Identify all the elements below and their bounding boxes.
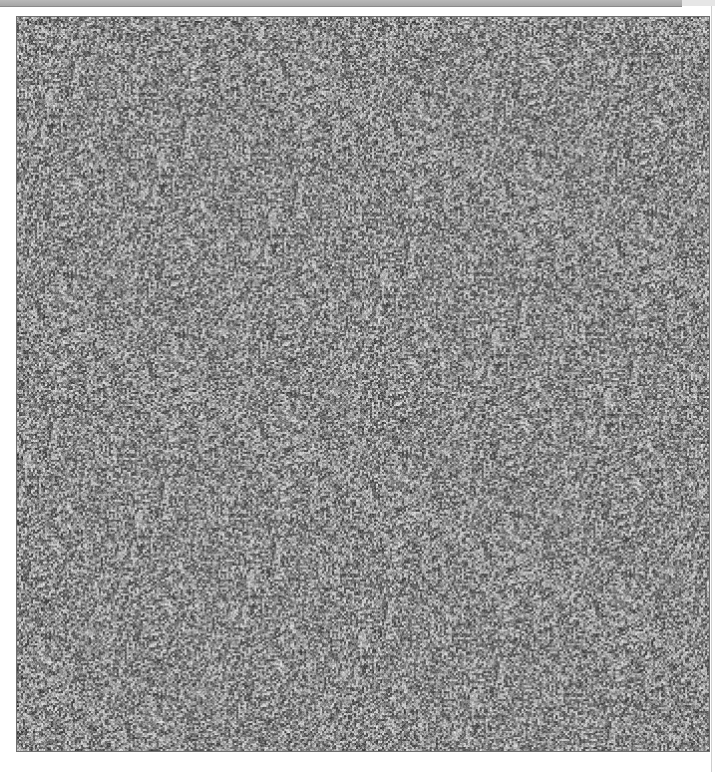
scroll-edge (711, 6, 712, 772)
window-top-bar (0, 0, 682, 7)
noise-image-frame (16, 16, 710, 752)
noise-image (17, 17, 709, 751)
